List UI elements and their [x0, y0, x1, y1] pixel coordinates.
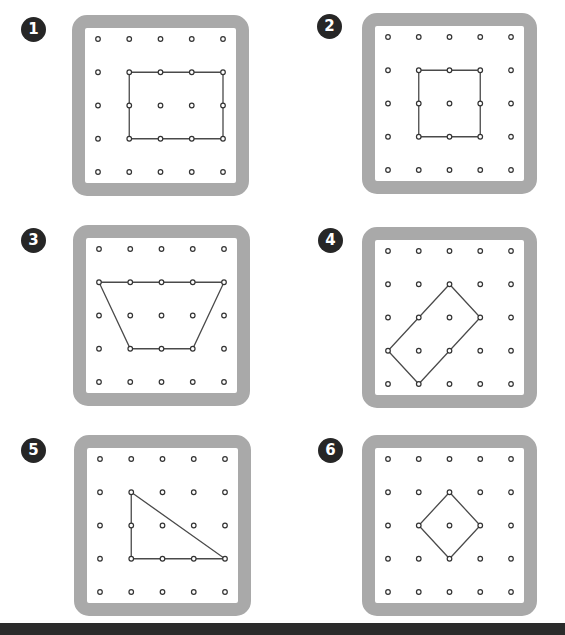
peg-icon — [416, 382, 421, 387]
peg-icon — [129, 523, 134, 528]
peg-icon — [129, 490, 134, 495]
peg-icon — [127, 70, 132, 75]
geoboard-canvas — [375, 448, 524, 603]
rubber-band-rectangle — [129, 72, 223, 139]
peg-icon — [478, 35, 483, 40]
peg-icon — [221, 37, 226, 42]
peg-icon — [158, 170, 163, 175]
peg-icon — [128, 346, 133, 351]
peg-icon — [128, 280, 133, 285]
peg-icon — [509, 68, 514, 73]
peg-icon — [160, 457, 165, 462]
peg-icon — [159, 380, 164, 385]
geoboard-6 — [362, 435, 537, 616]
board-number-badge-4: 4 — [318, 228, 343, 253]
geoboard-canvas — [375, 26, 524, 181]
board-number-badge-2: 2 — [317, 14, 342, 39]
geoboard-canvas — [85, 28, 236, 183]
peg-icon — [190, 280, 195, 285]
peg-icon — [222, 280, 227, 285]
peg-icon — [478, 68, 483, 73]
peg-icon — [190, 247, 195, 252]
peg-icon — [447, 282, 452, 287]
peg-icon — [478, 590, 483, 595]
peg-icon — [478, 348, 483, 353]
peg-icon — [447, 457, 452, 462]
peg-icon — [509, 348, 514, 353]
peg-icon — [158, 37, 163, 42]
peg-icon — [509, 249, 514, 254]
peg-icon — [386, 490, 391, 495]
peg-icon — [447, 68, 452, 73]
peg-icon — [509, 382, 514, 387]
peg-icon — [96, 103, 101, 108]
peg-icon — [159, 280, 164, 285]
peg-icon — [189, 103, 194, 108]
peg-icon — [386, 101, 391, 106]
peg-icon — [223, 556, 228, 561]
peg-icon — [191, 590, 196, 595]
geoboard-2 — [362, 13, 537, 194]
peg-icon — [127, 37, 132, 42]
peg-icon — [97, 313, 102, 318]
peg-icon — [386, 457, 391, 462]
peg-icon — [223, 457, 228, 462]
peg-icon — [447, 348, 452, 353]
peg-icon — [127, 136, 132, 141]
peg-icon — [478, 168, 483, 173]
peg-icon — [96, 136, 101, 141]
geoboard-4 — [362, 227, 537, 408]
board-number-badge-5: 5 — [21, 438, 46, 463]
peg-icon — [447, 382, 452, 387]
peg-icon — [129, 457, 134, 462]
peg-icon — [96, 170, 101, 175]
peg-icon — [447, 134, 452, 139]
peg-icon — [97, 247, 102, 252]
peg-icon — [416, 134, 421, 139]
peg-icon — [386, 315, 391, 320]
peg-icon — [158, 136, 163, 141]
peg-icon — [478, 556, 483, 561]
board-number-badge-6: 6 — [318, 438, 343, 463]
peg-icon — [509, 590, 514, 595]
peg-icon — [447, 168, 452, 173]
geoboard-canvas — [87, 448, 238, 603]
peg-icon — [159, 247, 164, 252]
peg-icon — [222, 313, 227, 318]
peg-icon — [159, 313, 164, 318]
peg-icon — [386, 556, 391, 561]
peg-icon — [128, 247, 133, 252]
peg-icon — [509, 134, 514, 139]
peg-icon — [416, 490, 421, 495]
peg-icon — [509, 101, 514, 106]
peg-icon — [158, 103, 163, 108]
peg-icon — [416, 523, 421, 528]
peg-icon — [509, 523, 514, 528]
peg-icon — [478, 382, 483, 387]
peg-icon — [191, 556, 196, 561]
geoboard-canvas — [86, 238, 237, 393]
board-number-badge-3: 3 — [21, 228, 46, 253]
peg-icon — [221, 136, 226, 141]
peg-icon — [223, 523, 228, 528]
peg-icon — [191, 523, 196, 528]
peg-icon — [127, 103, 132, 108]
peg-icon — [447, 490, 452, 495]
peg-icon — [386, 523, 391, 528]
peg-icon — [98, 490, 103, 495]
peg-icon — [447, 249, 452, 254]
peg-icon — [97, 280, 102, 285]
peg-icon — [509, 35, 514, 40]
peg-icon — [189, 37, 194, 42]
peg-icon — [416, 101, 421, 106]
peg-icon — [223, 490, 228, 495]
peg-icon — [416, 315, 421, 320]
board-number-badge-1: 1 — [21, 17, 46, 42]
peg-icon — [222, 247, 227, 252]
peg-icon — [98, 590, 103, 595]
peg-icon — [129, 556, 134, 561]
peg-icon — [98, 523, 103, 528]
peg-icon — [509, 490, 514, 495]
peg-icon — [478, 134, 483, 139]
peg-icon — [386, 35, 391, 40]
